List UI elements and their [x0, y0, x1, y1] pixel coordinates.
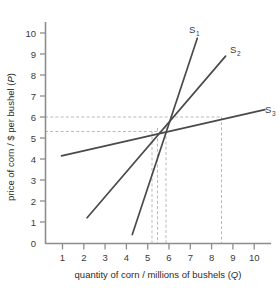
x-axis-title-main: quantity of corn / millions of bushels ( — [75, 269, 232, 280]
x-axis-tick-labels: 1 2 3 4 5 6 7 8 9 10 — [60, 252, 260, 263]
series-label-s1-base: S — [189, 24, 195, 35]
x-tick-label-10: 10 — [249, 252, 260, 263]
y-axis-ticks — [40, 33, 46, 222]
y-axis-title-main: price of corn / $ per bushel ( — [5, 82, 16, 201]
y-tick-label-4: 4 — [31, 154, 36, 165]
guide-lines — [45, 117, 222, 243]
x-axis-title: quantity of corn / millions of bushels (… — [75, 269, 242, 280]
supply-curves — [62, 38, 265, 234]
series-label-s3: S 3 — [265, 104, 276, 117]
series-label-s2-base: S — [230, 44, 236, 55]
series-label-s3-base: S — [265, 104, 271, 115]
y-axis-title: price of corn / $ per bushel (P) — [5, 73, 16, 201]
x-tick-label-9: 9 — [230, 252, 235, 263]
y-tick-label-1: 1 — [31, 217, 36, 228]
y-tick-label-5: 5 — [31, 133, 36, 144]
x-tick-label-6: 6 — [166, 252, 171, 263]
x-tick-label-2: 2 — [81, 252, 86, 263]
x-tick-label-1: 1 — [60, 252, 65, 263]
series-label-s3-sub: 3 — [272, 110, 276, 117]
y-tick-label-9: 9 — [31, 49, 36, 60]
series-label-s2: S 2 — [230, 44, 241, 57]
x-tick-label-4: 4 — [124, 252, 129, 263]
supply-curve-s1 — [132, 38, 197, 234]
y-tick-label-10: 10 — [25, 28, 36, 39]
y-tick-label-3: 3 — [31, 175, 36, 186]
x-tick-label-5: 5 — [145, 252, 150, 263]
y-tick-label-8: 8 — [31, 70, 36, 81]
supply-curve-s2 — [87, 56, 226, 218]
y-tick-label-6: 6 — [31, 112, 36, 123]
x-tick-label-3: 3 — [102, 252, 107, 263]
y-tick-label-0: 0 — [31, 238, 36, 249]
chart-svg: 10 9 8 7 6 5 4 3 2 1 0 1 2 — [0, 0, 279, 288]
x-tick-label-7: 7 — [188, 252, 193, 263]
y-tick-label-7: 7 — [31, 91, 36, 102]
y-axis-title-tail: ) — [5, 73, 16, 76]
series-label-s2-sub: 2 — [237, 50, 241, 57]
y-axis-tick-labels: 10 9 8 7 6 5 4 3 2 1 0 — [25, 28, 36, 250]
x-axis-ticks — [63, 244, 255, 250]
series-labels: S 1 S 2 S 3 — [189, 24, 276, 117]
y-tick-label-2: 2 — [31, 196, 36, 207]
supply-curves-chart: 10 9 8 7 6 5 4 3 2 1 0 1 2 — [0, 0, 279, 288]
x-tick-label-8: 8 — [209, 252, 214, 263]
series-label-s1-sub: 1 — [196, 30, 200, 37]
series-label-s1: S 1 — [189, 24, 200, 37]
x-axis-title-tail: ) — [238, 269, 241, 280]
